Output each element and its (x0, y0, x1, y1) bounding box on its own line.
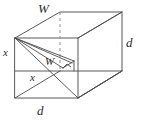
diagonal-to-front-bottom-right (15, 38, 78, 98)
bottom-face-diagonal-right (78, 71, 122, 98)
diagonal-to-inner-point (15, 38, 72, 63)
label-height-mid: x (30, 72, 35, 83)
diagonal-to-inner-lower (15, 38, 63, 68)
label-width-inner: W (45, 56, 54, 67)
right-angle-marker (63, 64, 71, 68)
label-height-left: x (3, 47, 8, 58)
label-depth-bottom: d (37, 104, 44, 117)
label-depth-right: d (126, 36, 133, 49)
box-diagram-svg (0, 0, 141, 122)
right-face-diagonal (78, 12, 122, 38)
label-width-top: W (38, 2, 49, 15)
bottom-face-diagonal-left (15, 71, 60, 98)
top-face-edges (15, 12, 122, 38)
geometry-figure: W d d x x W (0, 0, 141, 122)
